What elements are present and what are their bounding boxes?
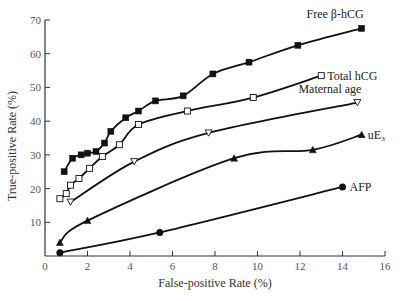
series-line <box>60 187 343 253</box>
x-tick-label: 12 <box>295 260 306 272</box>
data-point <box>63 191 69 197</box>
data-point <box>93 148 99 154</box>
x-tick-label: 0 <box>42 260 48 272</box>
series-label: AFP <box>350 180 372 194</box>
y-tick-label: 30 <box>30 149 42 161</box>
y-axis-title: True-positive Rate (%) <box>5 91 19 201</box>
data-point <box>359 25 365 31</box>
series-label: Total hCG <box>327 69 377 83</box>
data-point <box>358 131 365 138</box>
data-point <box>250 95 256 101</box>
x-tick-label: 14 <box>337 260 349 272</box>
data-point <box>78 152 84 158</box>
data-point <box>184 108 190 114</box>
x-tick-label: 6 <box>170 260 176 272</box>
y-tick-label: 10 <box>30 216 42 228</box>
series-group <box>56 25 365 256</box>
series-label: uE₃ <box>368 128 386 142</box>
data-point <box>56 249 63 256</box>
y-tick-label: 60 <box>30 48 42 60</box>
data-point <box>99 154 105 160</box>
x-axis-title: False-positive Rate (%) <box>158 276 271 290</box>
series-labels: Free β-hCGTotal hCGMaternal ageuE₃AFP <box>298 7 385 193</box>
data-point <box>67 199 74 205</box>
data-point <box>295 42 301 48</box>
data-point <box>116 142 122 148</box>
series-afp <box>56 183 346 256</box>
series-free-hcg <box>61 25 365 174</box>
data-point <box>123 115 129 121</box>
data-point <box>318 73 324 79</box>
data-point <box>102 140 108 146</box>
x-tick-label: 10 <box>252 260 264 272</box>
roc-chart: 102030405060700246810121416 Free β-hCGTo… <box>0 0 403 301</box>
data-point <box>136 122 142 128</box>
series-label: Free β-hCG <box>307 7 364 21</box>
data-point <box>57 196 63 202</box>
x-tick-label: 2 <box>85 260 91 272</box>
x-tick-label: 8 <box>212 260 218 272</box>
data-point <box>68 182 74 188</box>
data-point <box>87 165 93 171</box>
series-line <box>60 135 362 243</box>
x-tick-label: 16 <box>380 260 392 272</box>
x-tick-label: 4 <box>127 260 133 272</box>
data-point <box>246 59 252 65</box>
data-point <box>85 150 91 156</box>
series-label: Maternal age <box>298 82 361 96</box>
data-point <box>153 98 159 104</box>
y-tick-label: 40 <box>30 115 42 127</box>
series-line <box>64 28 362 171</box>
series-maternal-age <box>67 100 361 206</box>
data-point <box>76 175 82 181</box>
y-tick-label: 70 <box>30 14 42 26</box>
data-point <box>180 93 186 99</box>
data-point <box>61 169 67 175</box>
data-point <box>210 71 216 77</box>
series-ue <box>56 131 365 245</box>
data-point <box>70 155 76 161</box>
data-point <box>339 183 346 190</box>
data-point <box>136 108 142 114</box>
y-tick-label: 20 <box>30 183 42 195</box>
y-tick-label: 50 <box>30 81 42 93</box>
data-point <box>108 128 114 134</box>
data-point <box>156 229 163 236</box>
